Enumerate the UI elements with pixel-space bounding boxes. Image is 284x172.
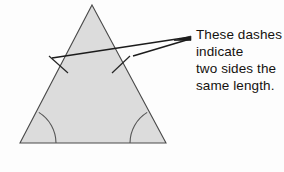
- triangle-shape: [20, 5, 166, 143]
- leader-arrow-wedge: [174, 36, 191, 41]
- geometry-figure: These dashes indicate two sides the same…: [0, 0, 284, 172]
- annotation-line-2: indicate: [196, 43, 284, 60]
- annotation-label: These dashes indicate two sides the same…: [196, 26, 284, 94]
- annotation-line-4: same length.: [196, 77, 284, 94]
- annotation-line-3: two sides the: [196, 60, 284, 77]
- annotation-line-1: These dashes: [196, 26, 284, 43]
